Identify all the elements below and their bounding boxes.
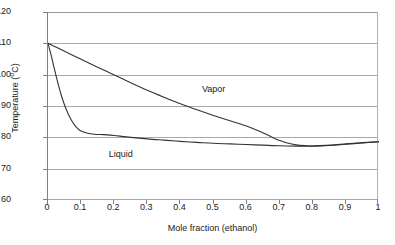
x-tick-mark-0 — [47, 200, 48, 204]
x-tick-mark-0.7 — [279, 200, 280, 204]
y-tick-label-80: 80 — [0, 132, 11, 141]
x-axis-title: Mole fraction (ethanol) — [47, 223, 378, 233]
plot-area: Vapor Liquid — [47, 12, 378, 200]
x-tick-label-1: 1 — [363, 203, 393, 212]
x-tick-mark-0.9 — [345, 200, 346, 204]
y-tick-label-120: 120 — [0, 7, 11, 16]
vapor-curve-path — [48, 43, 379, 146]
x-tick-mark-1 — [377, 200, 378, 204]
x-tick-mark-0.6 — [246, 200, 247, 204]
x-tick-label-0.1: 0.1 — [65, 203, 95, 212]
vapor-region-label: Vapor — [202, 84, 225, 94]
y-tick-label-70: 70 — [0, 164, 11, 173]
liquid-region-label: Liquid — [109, 149, 133, 159]
liquid-curve-path — [48, 43, 379, 146]
x-tick-mark-0.1 — [80, 200, 81, 204]
x-tick-mark-0.2 — [113, 200, 114, 204]
y-tick-label-110: 110 — [0, 38, 11, 47]
y-tick-label-60: 60 — [0, 195, 11, 204]
x-tick-label-0.4: 0.4 — [164, 203, 194, 212]
y-axis-title-prefix: Temperature ( — [10, 77, 20, 133]
y-axis-title-suffix: C) — [10, 63, 20, 73]
x-tick-mark-0.4 — [179, 200, 180, 204]
x-tick-label-0.2: 0.2 — [98, 203, 128, 212]
x-tick-label-0.8: 0.8 — [297, 203, 327, 212]
x-tick-mark-0.3 — [146, 200, 147, 204]
x-tick-mark-0.8 — [312, 200, 313, 204]
x-tick-label-0.9: 0.9 — [330, 203, 360, 212]
y-tick-label-90: 90 — [0, 101, 11, 110]
x-tick-label-0.5: 0.5 — [198, 203, 228, 212]
x-tick-label-0: 0 — [32, 203, 62, 212]
x-tick-label-0.3: 0.3 — [131, 203, 161, 212]
vle-phase-diagram-figure: Temperature (oC) 60708090100110120 Vapor… — [0, 0, 395, 245]
y-tick-label-100: 100 — [0, 70, 11, 79]
curve-layer — [48, 12, 379, 200]
x-tick-label-0.6: 0.6 — [231, 203, 261, 212]
x-tick-label-0.7: 0.7 — [264, 203, 294, 212]
x-tick-mark-0.5 — [213, 200, 214, 204]
